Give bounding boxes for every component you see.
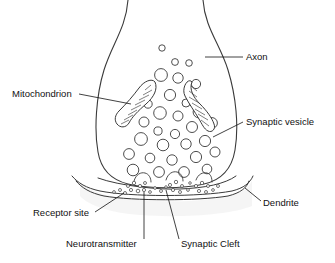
synaptic-vesicle: [179, 167, 190, 178]
neurotransmitter-molecule: [181, 185, 184, 188]
neurotransmitter-molecule: [132, 181, 135, 184]
neurotransmitter-molecule: [217, 185, 220, 188]
neurotransmitter-molecule: [197, 189, 200, 192]
synaptic-vesicle: [202, 164, 212, 174]
synaptic-vesicle: [154, 107, 167, 120]
synaptic-vesicle: [159, 45, 165, 51]
neurotransmitter-molecule: [207, 185, 210, 188]
neurotransmitter-molecule: [136, 189, 140, 193]
neurotransmitter-molecule: [168, 183, 171, 186]
label-mitochondrion: Mitochondrion: [12, 88, 72, 99]
label-dendrite: Dendrite: [263, 197, 299, 208]
neurotransmitter-molecule: [212, 189, 215, 192]
synaptic-vesicle: [170, 129, 179, 138]
synaptic-vesicle: [167, 155, 177, 165]
synaptic-vesicle: [173, 73, 183, 83]
synaptic-vesicle: [187, 122, 198, 133]
neurotransmitter-molecule: [129, 188, 132, 191]
neurotransmitter-molecule: [144, 182, 147, 185]
neurotransmitter-molecule: [113, 191, 116, 194]
synaptic-vesicle: [157, 139, 169, 151]
neurotransmitter-molecule: [189, 182, 192, 185]
synaptic-vesicle: [124, 149, 135, 160]
neurotransmitter-molecule: [149, 191, 152, 194]
synaptic-vesicle: [172, 59, 179, 66]
neurotransmitter-molecule: [200, 181, 203, 184]
neurotransmitter-molecule: [205, 191, 208, 194]
label-synaptic-vesicle: Synaptic vesicle: [246, 116, 314, 127]
neurotransmitter-molecule: [187, 189, 190, 192]
synaptic-vesicle: [155, 69, 168, 82]
synaptic-vesicle: [154, 167, 165, 178]
neurotransmitter-molecule: [165, 186, 168, 189]
neurotransmitter-molecule: [127, 185, 130, 188]
synaptic-vesicle: [173, 111, 183, 121]
synaptic-vesicle: [186, 60, 193, 67]
neurotransmitter-molecule: [142, 188, 145, 191]
synaptic-vesicle: [135, 133, 148, 146]
synaptic-vesicle: [199, 135, 210, 146]
synaptic-vesicle: [181, 139, 191, 149]
label-axon: Axon: [246, 51, 268, 62]
synaptic-vesicle: [210, 147, 220, 157]
neurotransmitter-molecule: [179, 191, 182, 194]
label-synaptic-cleft: Synaptic Cleft: [181, 238, 240, 249]
synaptic-vesicle: [164, 89, 175, 100]
synaptic-vesicle: [145, 153, 155, 163]
neurotransmitter-molecule: [154, 187, 157, 190]
diagram-canvas: AxonMitochondrionSynaptic vesicleRecepto…: [0, 0, 335, 263]
neurotransmitter-molecule: [194, 184, 197, 187]
label-neurotransmitter: Neurotransmitter: [66, 238, 137, 249]
neurotransmitter-molecule: [160, 190, 163, 193]
synaptic-vesicle: [154, 127, 162, 135]
synaptic-vesicle: [127, 164, 139, 176]
neurotransmitter-molecule: [171, 188, 174, 191]
synaptic-vesicle: [139, 117, 149, 127]
synaptic-vesicle: [190, 151, 201, 162]
label-receptor-site: Receptor site: [33, 207, 89, 218]
neurotransmitter-molecule: [174, 180, 177, 183]
synapse-diagram-figure: AxonMitochondrionSynaptic vesicleRecepto…: [0, 0, 335, 263]
neurotransmitter-molecule: [138, 184, 141, 187]
neurotransmitter-molecule: [119, 189, 122, 192]
